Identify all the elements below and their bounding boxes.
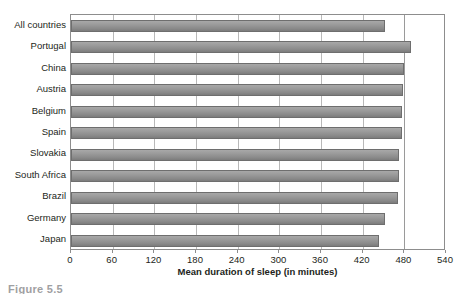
bar xyxy=(71,84,403,96)
bar-row xyxy=(71,79,444,100)
bar-row xyxy=(71,187,444,208)
bar xyxy=(71,127,402,139)
x-tick-label-60: 60 xyxy=(106,254,117,265)
y-axis-label: Austria xyxy=(0,84,66,94)
y-axis-label: Germany xyxy=(0,213,66,223)
y-axis-label: Japan xyxy=(0,234,66,244)
x-tick-mark-360 xyxy=(320,250,321,253)
bar-row xyxy=(71,208,444,229)
x-tick-label-360: 360 xyxy=(312,254,328,265)
y-axis-label: Brazil xyxy=(0,191,66,201)
x-tick-label-120: 120 xyxy=(145,254,161,265)
y-axis-label: Slovakia xyxy=(0,148,66,158)
bar xyxy=(71,63,404,75)
bar-row xyxy=(71,122,444,143)
x-axis-title: Mean duration of sleep (in minutes) xyxy=(70,266,445,277)
bar xyxy=(71,149,399,161)
y-axis-label: South Africa xyxy=(0,170,66,180)
x-tick-mark-120 xyxy=(153,250,154,253)
x-tick-mark-540 xyxy=(445,250,446,253)
x-tick-mark-420 xyxy=(362,250,363,253)
bar xyxy=(71,106,402,118)
figure-container: All countriesPortugalChinaAustriaBelgium… xyxy=(0,0,462,294)
bar-row xyxy=(71,144,444,165)
bar xyxy=(71,192,398,204)
y-axis-label: China xyxy=(0,63,66,73)
x-tick-mark-0 xyxy=(70,250,71,253)
plot-area xyxy=(70,14,445,250)
x-tick-mark-60 xyxy=(112,250,113,253)
x-tick-mark-180 xyxy=(195,250,196,253)
x-axis-ticks: 060120180240300360420480540 xyxy=(70,250,445,266)
y-axis-label: Spain xyxy=(0,127,66,137)
y-axis-labels: All countriesPortugalChinaAustriaBelgium… xyxy=(0,14,66,250)
bar xyxy=(71,41,411,53)
x-tick-label-540: 540 xyxy=(437,254,453,265)
bar xyxy=(71,235,379,247)
x-tick-mark-480 xyxy=(403,250,404,253)
x-tick-label-0: 0 xyxy=(67,254,72,265)
y-axis-label: All countries xyxy=(0,20,66,30)
bar-row xyxy=(71,36,444,57)
bar-row xyxy=(71,101,444,122)
x-tick-mark-300 xyxy=(278,250,279,253)
bar-series xyxy=(71,15,444,249)
bar-row xyxy=(71,58,444,79)
y-axis-label: Belgium xyxy=(0,106,66,116)
bar-row xyxy=(71,230,444,250)
y-axis-label: Portugal xyxy=(0,41,66,51)
x-tick-label-180: 180 xyxy=(187,254,203,265)
bar-row xyxy=(71,15,444,36)
x-tick-label-480: 480 xyxy=(395,254,411,265)
x-tick-label-240: 240 xyxy=(229,254,245,265)
bar xyxy=(71,170,399,182)
figure-caption: Figure 5.5 xyxy=(8,283,63,294)
bar xyxy=(71,213,385,225)
bar-row xyxy=(71,165,444,186)
x-tick-label-420: 420 xyxy=(354,254,370,265)
x-tick-label-300: 300 xyxy=(270,254,286,265)
bar xyxy=(71,20,385,32)
x-tick-mark-240 xyxy=(237,250,238,253)
